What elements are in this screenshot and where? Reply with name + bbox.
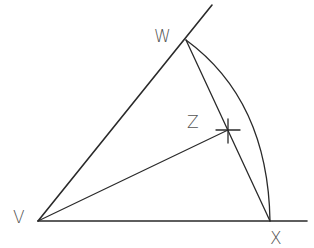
geometry-diagram: W Z V X bbox=[0, 0, 314, 248]
label-w: W bbox=[154, 26, 171, 46]
segment-vz bbox=[38, 130, 228, 221]
point-z-cross-mark bbox=[216, 119, 240, 143]
label-z: Z bbox=[187, 112, 199, 132]
ray-vw bbox=[38, 5, 212, 221]
label-v: V bbox=[13, 207, 25, 227]
label-x: X bbox=[270, 228, 282, 248]
